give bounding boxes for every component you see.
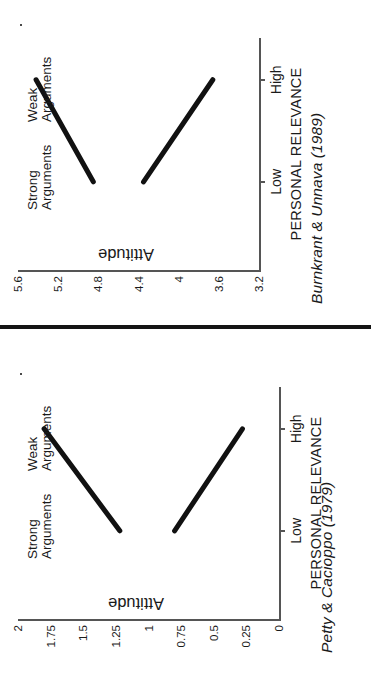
series-lines <box>18 387 279 619</box>
chart-panel-top: Burnkrant & Unnava (1989) Attitude PERSO… <box>0 0 371 326</box>
x-axis-label: PERSONAL RELEVANCE <box>308 417 324 590</box>
x-axis-tick-mark <box>279 530 285 532</box>
axis-artifact-dot <box>20 24 22 26</box>
chart-petty-cacioppo: Petty & Cacioppo (1979) Attitude PERSONA… <box>0 329 371 675</box>
chart-title: Burnkrant & Unnava (1989) <box>308 113 326 304</box>
series-line-weak-arguments <box>175 429 243 531</box>
y-axis-tick-label: 2 <box>12 619 24 631</box>
y-axis-tick-label: 0.25 <box>240 619 252 647</box>
chart-panel-bottom: Petty & Cacioppo (1979) Attitude PERSONA… <box>0 329 371 675</box>
series-label-strong-arguments: StrongArguments <box>26 145 54 210</box>
series-lines <box>18 38 259 270</box>
series-label-line: Arguments <box>40 57 54 122</box>
y-axis-tick-label: 0.75 <box>175 619 187 647</box>
x-axis-category-label: High <box>288 414 304 443</box>
y-axis-tick-label: 1.5 <box>77 619 89 641</box>
y-axis-tick-label: 3.2 <box>253 270 265 292</box>
series-label-weak-arguments: WeakArguments <box>26 406 54 471</box>
series-label-line: Weak <box>26 406 40 471</box>
y-axis-tick-label: 4 <box>173 270 185 282</box>
plot-area: Attitude PERSONAL RELEVANCE 21.751.51.25… <box>18 387 281 621</box>
y-axis-tick-label: 1 <box>143 619 155 631</box>
x-axis-category-label: High <box>268 65 284 94</box>
rotated-stage-top: Burnkrant & Unnava (1989) Attitude PERSO… <box>0 0 371 326</box>
series-label-line: Arguments <box>40 494 54 559</box>
axis-artifact-dot <box>20 373 22 375</box>
y-axis-tick-label: 1.25 <box>110 619 122 647</box>
x-axis-tick-mark <box>279 428 285 430</box>
x-axis-category-label: Low <box>288 518 304 544</box>
series-line-strong-arguments <box>44 429 120 531</box>
y-axis-tick-label: 0.5 <box>208 619 220 641</box>
series-label-line: Weak <box>26 57 40 122</box>
series-label-line: Arguments <box>40 145 54 210</box>
y-axis-tick-label: 4.8 <box>92 270 104 292</box>
y-axis-tick-label: 4.4 <box>133 270 145 292</box>
series-label-line: Arguments <box>40 406 54 471</box>
x-axis-category-label: Low <box>268 169 284 195</box>
y-axis-tick-label: 0 <box>273 619 285 631</box>
chart-burnkrant-unnava: Burnkrant & Unnava (1989) Attitude PERSO… <box>0 0 371 326</box>
y-axis-tick-label: 5.6 <box>12 270 24 292</box>
series-label-strong-arguments: StrongArguments <box>26 494 54 559</box>
y-axis-label: Attitude <box>98 245 154 264</box>
y-axis-tick-label: 1.75 <box>45 619 57 647</box>
y-axis-tick-label: 3.6 <box>213 270 225 292</box>
y-axis-label: Attitude <box>108 594 164 613</box>
series-label-line: Strong <box>26 145 40 210</box>
plot-area: Attitude PERSONAL RELEVANCE 5.65.24.84.4… <box>18 38 261 272</box>
y-axis-tick-label: 5.2 <box>52 270 64 292</box>
series-label-line: Strong <box>26 494 40 559</box>
x-axis-label: PERSONAL RELEVANCE <box>288 68 304 241</box>
series-label-weak-arguments: WeakArguments <box>26 57 54 122</box>
x-axis-tick-mark <box>259 181 265 183</box>
x-axis-tick-mark <box>259 79 265 81</box>
rotated-stage-bottom: Petty & Cacioppo (1979) Attitude PERSONA… <box>0 329 371 675</box>
series-line-weak-arguments <box>144 80 213 182</box>
